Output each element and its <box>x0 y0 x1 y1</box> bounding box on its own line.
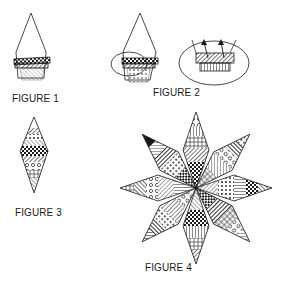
figure-1-diagram <box>14 13 50 80</box>
figure-2-detail <box>179 39 249 85</box>
figure-2-diagram <box>111 13 158 82</box>
figure-3-diagram <box>18 117 50 194</box>
figure-3-label: FIGURE 3 <box>15 207 62 218</box>
figure-4-star <box>120 112 272 264</box>
figure-2-label: FIGURE 2 <box>153 87 200 98</box>
illustration-canvas <box>0 0 283 281</box>
figure-1-label: FIGURE 1 <box>12 93 59 104</box>
figure-4-label: FIGURE 4 <box>145 262 192 273</box>
